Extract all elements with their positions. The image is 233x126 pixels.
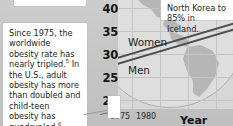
- series-label-women: Women: [128, 36, 167, 48]
- callout-text-part-b: In the U.S., adult obesity has more than…: [9, 59, 81, 126]
- chart-x-axis: 1975 1980: [110, 110, 233, 126]
- y-axis-tick-label: 35: [94, 25, 118, 39]
- chart-gridline-horizontal: [118, 54, 233, 55]
- callout-text-part-a: Since 1975, the worldwide obesity rate h…: [9, 28, 74, 69]
- infographic-crop: Women Men 40 35 30 25 20 1975 1980 Year …: [0, 0, 233, 126]
- callout-country-range-text: North Korea to 85% in Iceland.: [161, 0, 233, 34]
- x-axis-tick-label: 1980: [136, 112, 156, 121]
- x-axis-title: Year: [180, 114, 207, 126]
- callout-country-range: North Korea to 85% in Iceland.: [161, 0, 233, 20]
- callout-leader-box: [108, 96, 120, 118]
- callout-top-partial: [14, 0, 86, 6]
- callout-obesity-stats: Since 1975, the worldwide obesity rate h…: [3, 23, 87, 126]
- chart-gridline-horizontal: [118, 100, 233, 101]
- y-axis-tick-label: 25: [94, 71, 118, 85]
- y-axis-tick-label: 40: [94, 2, 118, 16]
- callout-leader: [84, 96, 118, 122]
- footnote-marker-6: 6: [58, 121, 61, 126]
- y-axis-tick-label: 30: [94, 48, 118, 62]
- series-label-men: Men: [128, 64, 150, 76]
- chart-gridline-horizontal: [118, 77, 233, 78]
- callout-obesity-stats-text: Since 1975, the worldwide obesity rate h…: [3, 23, 87, 126]
